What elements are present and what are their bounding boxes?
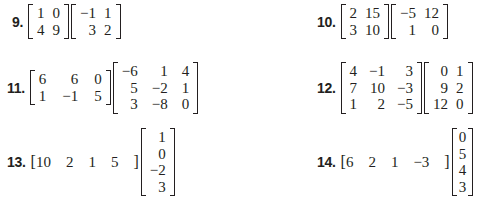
cell: 15 xyxy=(361,5,384,22)
cell: 4 xyxy=(33,22,49,39)
cell: 9 xyxy=(49,22,65,39)
cell: 2 xyxy=(100,22,116,39)
cell: 1 xyxy=(88,154,96,171)
cell: 9 xyxy=(429,80,452,97)
cell: 1 xyxy=(396,22,420,39)
cell: 2 xyxy=(368,154,376,171)
problem-9: 9. 1 0 4 9 −1 1 3 2 xyxy=(12,4,123,39)
cell: 10 xyxy=(36,154,51,171)
cell: 3 xyxy=(146,179,170,196)
cell: 3 xyxy=(76,22,100,39)
cell: 0 xyxy=(455,129,471,146)
matrix-b: −6 1 4 5 −2 1 3 −8 0 xyxy=(113,62,198,114)
cell: 3 xyxy=(455,179,471,196)
cell: 5 xyxy=(111,154,119,171)
cell: 4 xyxy=(455,162,471,179)
cell: −2 xyxy=(148,80,172,97)
cell: −1 xyxy=(365,63,389,80)
cell: −8 xyxy=(148,96,172,113)
matrix-a: 4 −1 3 7 10 −3 1 2 −5 xyxy=(341,62,422,114)
cell: 1 xyxy=(146,129,170,146)
cell: 0 xyxy=(452,96,468,113)
cell: −1 xyxy=(76,5,100,22)
matrix-a: 2 15 3 10 xyxy=(341,4,390,39)
problem-11: 11. 6 6 0 1 −1 5 −6 1 4 5 −2 1 3 −8 0 xyxy=(7,62,200,114)
cell: 5 xyxy=(118,80,142,97)
cell: 5 xyxy=(455,146,471,163)
cell: 2 xyxy=(365,96,389,113)
cell: 0 xyxy=(178,96,194,113)
cell: 3 xyxy=(393,63,417,80)
cell: 12 xyxy=(429,96,452,113)
cell: 7 xyxy=(346,80,362,97)
cell: 1 xyxy=(452,63,468,80)
cell: 1 xyxy=(391,154,399,171)
cell: −5 xyxy=(396,5,420,22)
cell: 4 xyxy=(346,63,362,80)
cell: −6 xyxy=(118,63,142,80)
matrix-b: 0 1 9 2 12 0 xyxy=(424,62,473,114)
close-bracket: ] xyxy=(444,153,449,171)
cell: 6 xyxy=(35,71,51,88)
problem-10: 10. 2 15 3 10 −5 12 1 0 xyxy=(317,4,450,39)
cell: 1 xyxy=(148,63,172,80)
cell: −3 xyxy=(413,154,429,171)
cell: 10 xyxy=(365,80,389,97)
cell: 0 xyxy=(90,71,106,88)
cell: 12 xyxy=(420,5,443,22)
cell: −3 xyxy=(393,80,417,97)
column-vector: 0 5 4 3 xyxy=(452,128,474,196)
problem-13: 13. [ 10 2 1 5 ] 1 0 −2 3 xyxy=(7,128,177,196)
problem-14: 14. [ 6 2 1 −3 ] 0 5 4 3 xyxy=(317,128,475,196)
problem-number: 10. xyxy=(317,14,336,30)
cell: −1 xyxy=(58,88,82,105)
cell: 2 xyxy=(452,80,468,97)
cell: 3 xyxy=(346,22,362,39)
cell: 1 xyxy=(178,80,194,97)
problem-number: 9. xyxy=(12,14,23,30)
problem-number: 14. xyxy=(317,154,336,170)
column-vector: 1 0 −2 3 xyxy=(141,128,175,196)
cell: 6 xyxy=(346,154,354,171)
cell: −5 xyxy=(393,96,417,113)
problem-12: 12. 4 −1 3 7 10 −3 1 2 −5 0 1 9 2 12 0 xyxy=(317,62,475,114)
cell: 2 xyxy=(66,154,74,171)
cell: 0 xyxy=(146,146,170,163)
matrix-a: 1 0 4 9 xyxy=(28,4,69,39)
row-vector: [ 10 2 1 5 ] xyxy=(31,153,139,171)
cell: 0 xyxy=(429,63,452,80)
cell: 1 xyxy=(33,5,49,22)
cell: 3 xyxy=(118,96,142,113)
problem-number: 11. xyxy=(7,80,25,96)
cell: 0 xyxy=(49,5,65,22)
cell: 5 xyxy=(90,88,106,105)
cell: −2 xyxy=(146,162,170,179)
cell: 1 xyxy=(100,5,116,22)
cell: 0 xyxy=(420,22,443,39)
problem-number: 13. xyxy=(7,154,26,170)
cell: 1 xyxy=(35,88,51,105)
matrix-a: 6 6 0 1 −1 5 xyxy=(30,70,111,105)
cell: 10 xyxy=(361,22,384,39)
close-bracket: ] xyxy=(133,153,138,171)
cell: 4 xyxy=(178,63,194,80)
problem-number: 12. xyxy=(317,80,336,96)
row-vector: [ 6 2 1 −3 ] xyxy=(341,153,450,171)
cell: 1 xyxy=(346,96,362,113)
cell: 6 xyxy=(58,71,82,88)
cell: 2 xyxy=(346,5,362,22)
matrix-b: −1 1 3 2 xyxy=(71,4,120,39)
matrix-b: −5 12 1 0 xyxy=(391,4,448,39)
